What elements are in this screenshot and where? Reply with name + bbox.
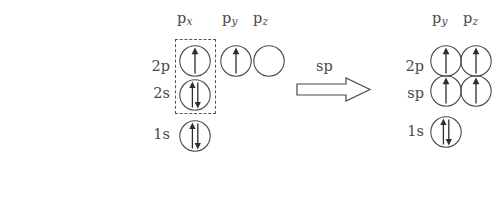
left-orbital-1s	[178, 119, 212, 153]
right-row-label-2p: 2p	[380, 59, 424, 74]
left-orbital-2p-py	[219, 44, 253, 78]
left-column-header-py: py	[222, 11, 237, 27]
left-column-header-px: px	[177, 11, 192, 27]
left-column-header-pz: pz	[253, 11, 268, 27]
right-orbital-1s	[429, 115, 463, 149]
right-arrow-icon	[296, 76, 372, 104]
left-row-label-2p: 2p	[118, 59, 170, 74]
right-orbital-sp-2	[459, 74, 492, 108]
left-header-py-sub: y	[231, 15, 237, 27]
orbital-diagram: px py pz 2p 2s 1s	[0, 0, 492, 216]
right-orbital-2p-py	[429, 44, 463, 78]
right-header-py-sub: y	[441, 15, 447, 27]
left-row-label-1s: 1s	[118, 127, 170, 142]
right-column-header-pz: pz	[463, 11, 478, 27]
right-row-label-1s: 1s	[380, 124, 424, 139]
left-header-pz-sub: z	[262, 15, 268, 27]
left-orbital-2p-px	[178, 44, 212, 78]
right-orbital-2p-pz	[459, 44, 492, 78]
left-orbital-2p-pz-empty	[252, 44, 286, 78]
left-row-label-2s: 2s	[118, 86, 170, 101]
left-header-px-sub: x	[186, 15, 192, 27]
right-orbital-sp-1	[429, 74, 463, 108]
right-column-header-py: py	[432, 11, 447, 27]
right-row-label-sp: sp	[380, 86, 424, 101]
right-header-pz-sub: z	[472, 15, 478, 27]
left-orbital-2s	[178, 78, 212, 112]
transform-label-sp: sp	[316, 59, 333, 74]
